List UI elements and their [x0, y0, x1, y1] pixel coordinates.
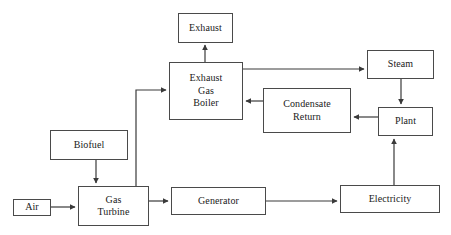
node-plant-label: Plant — [393, 115, 418, 128]
node-exhaust-gas-boiler-label: Exhaust Gas Boiler — [188, 72, 225, 110]
connector-turbine-to-boiler — [136, 90, 166, 186]
node-air[interactable]: Air — [13, 199, 51, 216]
node-exhaust[interactable]: Exhaust — [178, 13, 233, 43]
node-biofuel[interactable]: Biofuel — [50, 130, 128, 160]
node-steam-label: Steam — [386, 58, 416, 71]
node-air-label: Air — [23, 201, 41, 214]
flow-diagram-canvas: Exhaust Exhaust Gas Boiler Steam Condens… — [0, 0, 451, 235]
node-exhaust-gas-boiler[interactable]: Exhaust Gas Boiler — [169, 62, 243, 120]
node-generator[interactable]: Generator — [171, 187, 266, 215]
node-electricity[interactable]: Electricity — [340, 185, 440, 213]
node-gas-turbine[interactable]: Gas Turbine — [78, 186, 149, 226]
node-condensate-return-label: Condensate Return — [281, 98, 333, 123]
node-plant[interactable]: Plant — [378, 107, 433, 136]
node-biofuel-label: Biofuel — [72, 139, 107, 152]
node-electricity-label: Electricity — [367, 193, 414, 206]
node-steam[interactable]: Steam — [367, 50, 434, 79]
node-gas-turbine-label: Gas Turbine — [95, 194, 131, 219]
node-condensate-return[interactable]: Condensate Return — [263, 88, 351, 133]
node-generator-label: Generator — [196, 195, 241, 208]
node-exhaust-label: Exhaust — [187, 22, 224, 35]
